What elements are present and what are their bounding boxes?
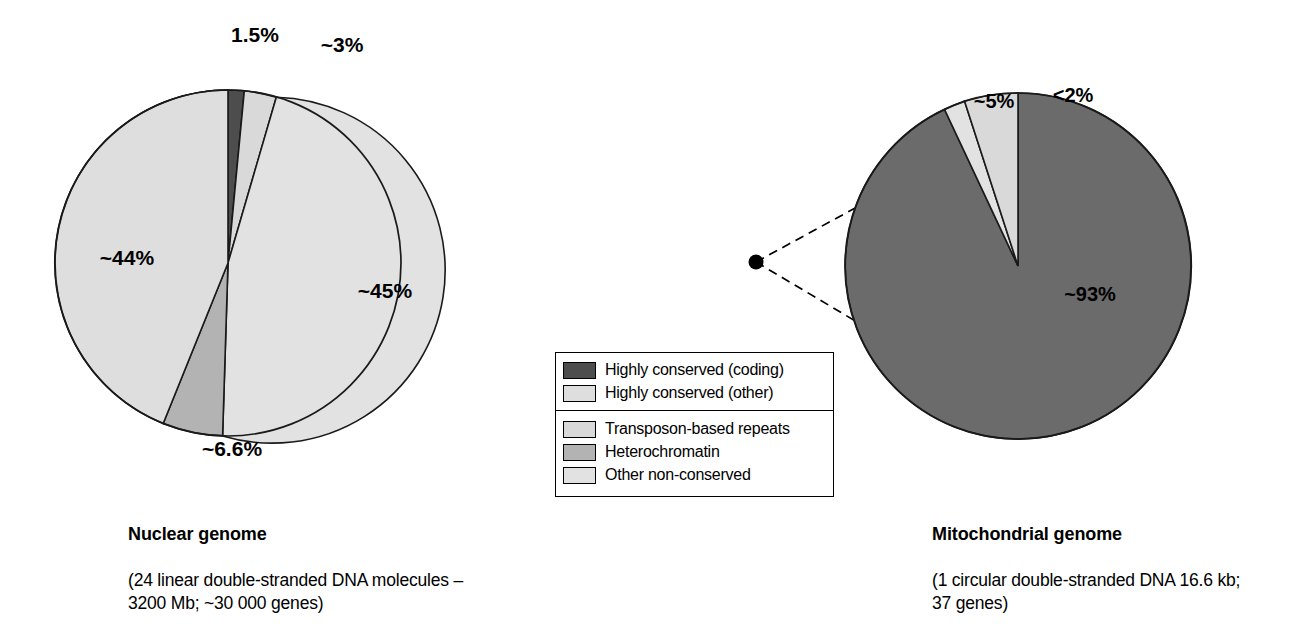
nuclear-genome-caption-title: Nuclear genome bbox=[128, 523, 468, 546]
legend-item-highly-conserved-coding[interactable]: Highly conserved (coding) bbox=[563, 359, 833, 381]
legend-label-other-non-conserved: Other non-conserved bbox=[605, 466, 751, 484]
mito-label-coding: ~93% bbox=[1064, 283, 1116, 305]
legend-item-transposon-based-repeats[interactable]: Transposon-based repeats bbox=[563, 418, 833, 440]
mito-label-transposon: ~5% bbox=[974, 90, 1015, 112]
mitochondrial-genome-caption: Mitochondrial genome (1 circular double-… bbox=[932, 500, 1262, 634]
legend-label-highly-conserved-coding: Highly conserved (coding) bbox=[605, 361, 784, 379]
legend-swatch-heterochromatin bbox=[563, 444, 596, 461]
legend-swatch-highly-conserved-other bbox=[563, 385, 596, 402]
nuclear-label-other-non-conserved: ~45% bbox=[358, 279, 413, 302]
figure-canvas: 1.5% ~3% ~45% ~6.6% ~44% ~5% <2% ~93% bbox=[0, 0, 1296, 634]
nuclear-label-highly-conserved-other: ~44% bbox=[100, 246, 155, 269]
legend-label-highly-conserved-other: Highly conserved (other) bbox=[605, 384, 773, 402]
nuclear-genome-caption-detail: (24 linear double-stranded DNA molecules… bbox=[128, 569, 468, 615]
nuclear-label-transposon: ~3% bbox=[321, 33, 364, 56]
callout-apex-dot bbox=[749, 255, 764, 270]
legend-item-other-non-conserved[interactable]: Other non-conserved bbox=[563, 464, 833, 486]
legend-swatch-other-non-conserved bbox=[563, 467, 596, 484]
legend-swatch-highly-conserved-coding bbox=[563, 362, 596, 379]
legend-group-non-conserved: Transposon-based repeats Heterochromatin… bbox=[556, 411, 833, 495]
legend: Highly conserved (coding) Highly conserv… bbox=[555, 352, 834, 497]
legend-swatch-transposon-based-repeats bbox=[563, 421, 596, 438]
nuclear-genome-caption: Nuclear genome (24 linear double-strande… bbox=[128, 500, 468, 634]
nuclear-label-coding: 1.5% bbox=[231, 23, 279, 46]
nuclear-label-heterochromatin: ~6.6% bbox=[202, 437, 262, 460]
mitochondrial-genome-caption-title: Mitochondrial genome bbox=[932, 523, 1262, 546]
mitochondrial-genome-pie bbox=[845, 93, 1191, 439]
mitochondrial-genome-caption-detail: (1 circular double-stranded DNA 16.6 kb;… bbox=[932, 569, 1262, 615]
mito-label-other: <2% bbox=[1053, 84, 1094, 106]
legend-item-heterochromatin[interactable]: Heterochromatin bbox=[563, 441, 833, 463]
legend-group-conserved: Highly conserved (coding) Highly conserv… bbox=[556, 353, 833, 411]
legend-label-heterochromatin: Heterochromatin bbox=[605, 443, 720, 461]
legend-item-highly-conserved-other[interactable]: Highly conserved (other) bbox=[563, 382, 833, 404]
legend-label-transposon-based-repeats: Transposon-based repeats bbox=[605, 420, 790, 438]
